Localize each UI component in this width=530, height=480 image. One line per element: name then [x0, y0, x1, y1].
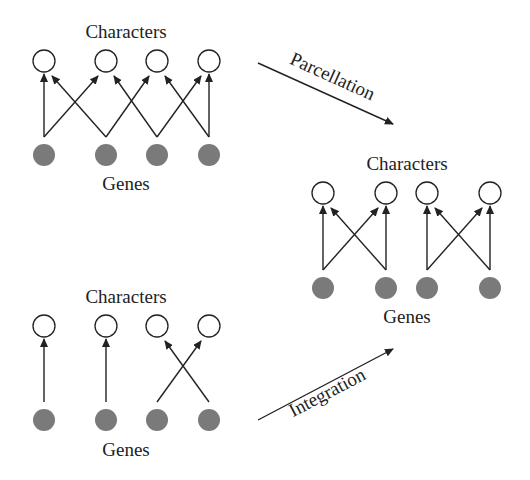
gene-node — [375, 277, 397, 299]
gene-to-character-arrow-icon — [114, 76, 157, 137]
gene-node — [312, 277, 334, 299]
integration-transition: Integration — [258, 349, 393, 421]
character-node — [312, 182, 334, 204]
gene-node — [198, 144, 220, 166]
characters-label: Characters — [85, 21, 166, 42]
character-node — [33, 315, 55, 337]
gene-node — [146, 144, 168, 166]
parcellation-label: Parcellation — [287, 48, 379, 105]
gene-node — [95, 409, 117, 431]
gene-to-character-arrow-icon — [44, 76, 98, 137]
gene-character-edges — [44, 339, 209, 402]
character-node — [198, 315, 220, 337]
character-nodes — [33, 315, 220, 337]
gene-character-diagram: Characters Genes Characters Genes Charac… — [0, 0, 530, 480]
gene-to-character-arrow-icon — [165, 76, 209, 137]
genes-label: Genes — [102, 173, 149, 194]
panel-top-left-pleiotropic: Characters Genes — [33, 21, 220, 194]
character-node — [33, 50, 55, 72]
character-node — [146, 50, 168, 72]
character-node — [375, 182, 397, 204]
character-node — [479, 182, 501, 204]
gene-to-character-arrow-icon — [52, 76, 106, 137]
integration-label: Integration — [285, 363, 369, 421]
gene-character-edges — [323, 206, 490, 270]
gene-nodes — [33, 144, 220, 166]
character-node — [198, 50, 220, 72]
character-node — [95, 315, 117, 337]
gene-to-character-arrow-icon — [165, 341, 209, 402]
character-node — [416, 182, 438, 204]
gene-node — [33, 409, 55, 431]
gene-to-character-arrow-icon — [323, 208, 378, 270]
gene-to-character-arrow-icon — [157, 341, 201, 402]
gene-to-character-arrow-icon — [106, 76, 149, 137]
character-node — [146, 315, 168, 337]
gene-nodes — [33, 409, 220, 431]
genes-label: Genes — [102, 439, 149, 460]
character-nodes — [33, 50, 220, 72]
gene-node — [479, 277, 501, 299]
character-node — [95, 50, 117, 72]
gene-to-character-arrow-icon — [427, 208, 482, 270]
characters-label: Characters — [366, 153, 447, 174]
gene-to-character-arrow-icon — [331, 208, 386, 270]
gene-nodes — [312, 277, 501, 299]
genes-label: Genes — [383, 306, 430, 327]
gene-node — [416, 277, 438, 299]
gene-to-character-arrow-icon — [435, 208, 490, 270]
gene-node — [198, 409, 220, 431]
gene-node — [33, 144, 55, 166]
gene-character-edges — [44, 74, 209, 137]
panel-bottom-left-independent: Characters Genes — [33, 286, 220, 460]
panel-right-modular: Characters Genes — [312, 153, 501, 327]
character-nodes — [312, 182, 501, 204]
characters-label: Characters — [85, 286, 166, 307]
parcellation-transition: Parcellation — [258, 48, 393, 124]
gene-node — [146, 409, 168, 431]
gene-node — [95, 144, 117, 166]
gene-to-character-arrow-icon — [157, 76, 201, 137]
